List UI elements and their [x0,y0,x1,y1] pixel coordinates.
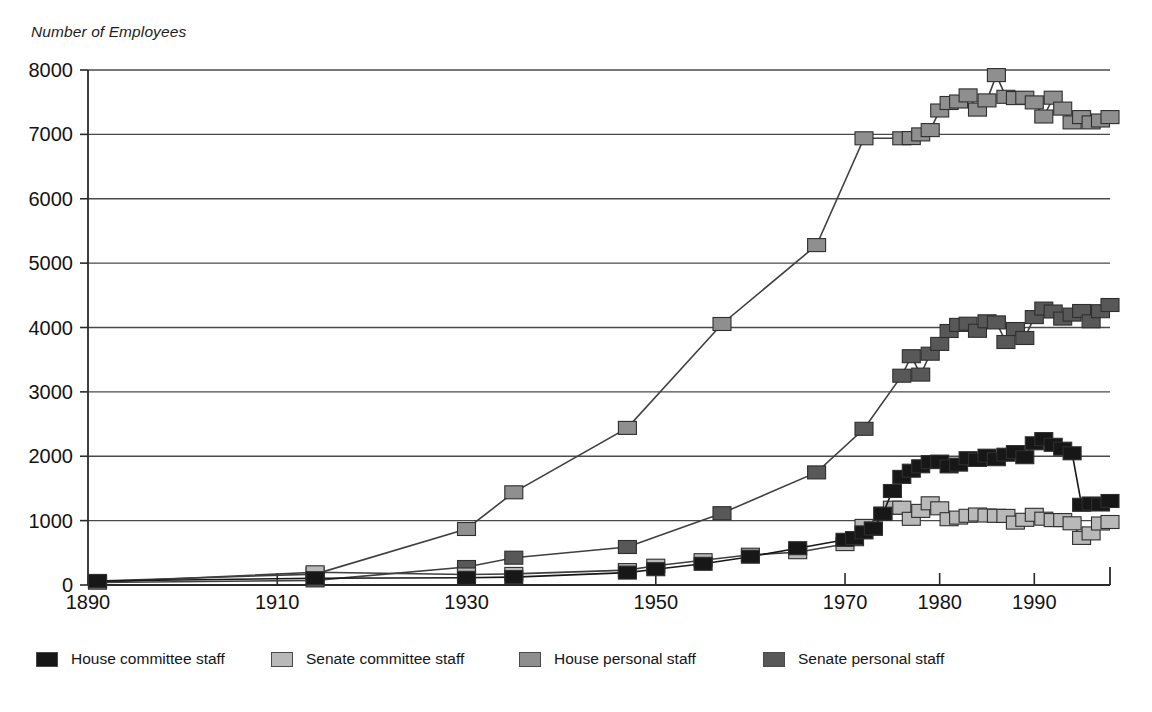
data-point-marker [713,318,731,331]
data-point-marker [921,124,939,137]
x-axis-tick-label: 1910 [255,591,300,613]
data-point-marker [987,69,1005,82]
legend-item-senate-personal-staff[interactable]: Senate personal staff [763,650,944,668]
data-point-marker [694,557,712,570]
data-point-marker [855,132,873,145]
data-point-marker [959,89,977,102]
data-point-marker [1101,516,1119,529]
data-point-marker [458,523,476,536]
data-point-marker [458,571,476,584]
series-senate-committee-staff [89,497,1120,589]
data-point-marker [1101,495,1119,508]
y-axis-tick-label: 2000 [29,445,74,467]
data-point-marker [931,337,949,350]
y-axis-tick-label: 4000 [29,317,74,339]
data-point-marker [1063,517,1081,530]
data-point-marker [1101,111,1119,124]
legend-swatch-senate-personal-staff [763,652,785,667]
legend-item-senate-committee-staff[interactable]: Senate committee staff [271,650,464,668]
data-point-marker [89,575,107,588]
data-point-marker [808,466,826,479]
data-point-marker [874,507,892,520]
data-point-marker [1035,110,1053,123]
chart-figure: Number of Employees 01000200030004000500… [0,0,1152,712]
x-axis-tick-label: 1890 [66,591,111,613]
data-point-marker [883,485,901,498]
legend-label-senate-personal-staff: Senate personal staff [798,650,944,668]
data-point-marker [505,551,523,564]
data-point-marker [618,566,636,579]
legend-swatch-house-personal-staff [519,652,541,667]
x-axis-tick-label: 1930 [444,591,489,613]
data-point-marker [808,239,826,252]
data-point-marker [902,350,920,363]
x-axis-tick-label: 1990 [1012,591,1057,613]
legend-item-house-committee-staff[interactable]: House committee staff [36,650,225,668]
chart-legend: House committee staff Senate committee s… [0,650,1152,684]
data-point-marker [647,563,665,576]
data-point-marker [741,550,759,563]
series-senate-personal-staff [89,299,1120,590]
y-axis-tick-label: 8000 [29,59,74,81]
legend-label-house-personal-staff: House personal staff [554,650,696,668]
data-point-marker [618,421,636,434]
data-point-marker [978,94,996,107]
data-point-marker [1016,451,1034,464]
data-point-marker [893,369,911,382]
data-point-marker [864,522,882,535]
data-point-marker [855,422,873,435]
x-axis-tick-label: 1970 [823,591,868,613]
legend-swatch-house-committee-staff [36,652,58,667]
data-point-marker [713,507,731,520]
data-point-marker [1025,96,1043,109]
data-point-marker [505,571,523,584]
y-axis-tick-label: 1000 [29,510,74,532]
legend-label-house-committee-staff: House committee staff [71,650,225,668]
legend-item-house-personal-staff[interactable]: House personal staff [519,650,696,668]
data-point-marker [912,368,930,381]
legend-swatch-senate-committee-staff [271,652,293,667]
data-point-marker [987,316,1005,329]
y-axis-tick-label: 3000 [29,381,74,403]
x-axis-tick-label: 1980 [917,591,962,613]
data-point-marker [1016,332,1034,345]
data-point-marker [997,336,1015,349]
data-point-marker [618,541,636,554]
data-point-marker [789,542,807,555]
data-point-marker [1063,447,1081,460]
y-axis-tick-label: 6000 [29,188,74,210]
y-axis-tick-label: 7000 [29,123,74,145]
data-point-marker [505,486,523,499]
data-point-marker [1101,299,1119,312]
series-line [98,305,1111,583]
legend-label-senate-committee-staff: Senate committee staff [306,650,464,668]
x-axis-tick-label: 1950 [634,591,679,613]
chart-svg: 0100020003000400050006000700080001890191… [0,0,1152,712]
y-axis-tick-label: 5000 [29,252,74,274]
data-point-marker [306,572,324,585]
data-point-marker [1054,102,1072,115]
